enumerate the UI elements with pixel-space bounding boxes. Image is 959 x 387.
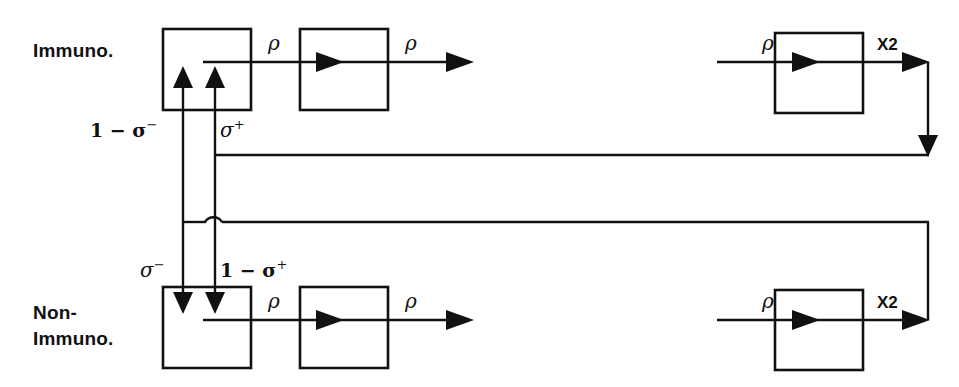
box-nonimmuno-stage-3 bbox=[775, 290, 863, 370]
box-immuno-stage-3 bbox=[775, 33, 863, 113]
arrowhead-immuno-x2 bbox=[902, 52, 930, 72]
arrowhead-immuno-feedback-down bbox=[918, 135, 938, 157]
label-non-prefix: Non- bbox=[33, 302, 77, 323]
arrowhead-nonimmuno-x2 bbox=[902, 310, 930, 330]
label-bottom-left-transition: σ− bbox=[140, 257, 165, 282]
arrowhead-nonimmuno-2-out bbox=[446, 310, 474, 330]
label-rho-nonimmuno-3: ρ bbox=[761, 289, 774, 313]
label-bottom-right-transition: 1 − σ+ bbox=[220, 257, 287, 281]
label-immuno: Immuno. bbox=[33, 40, 114, 61]
label-rho-immuno-1: ρ bbox=[267, 31, 280, 55]
label-x2-immuno: X2 bbox=[877, 35, 898, 54]
label-rho-immuno-3: ρ bbox=[761, 31, 774, 55]
label-nonimmuno: Immuno. bbox=[33, 328, 114, 349]
label-rho-nonimmuno-2: ρ bbox=[404, 289, 417, 313]
box-nonimmuno-stage-2 bbox=[300, 287, 388, 368]
label-x2-nonimmuno: X2 bbox=[877, 293, 898, 312]
diagram-root: Immuno. Non- Immuno. 1 − σ− σ+ σ− 1 − σ+… bbox=[0, 0, 959, 387]
label-rho-immuno-2: ρ bbox=[404, 31, 417, 55]
label-top-right-transition: σ+ bbox=[220, 117, 245, 142]
label-top-left-transition: 1 − σ− bbox=[90, 117, 157, 141]
arrowhead-immuno-2-out bbox=[446, 52, 474, 72]
box-immuno-stage-1 bbox=[163, 29, 251, 110]
box-nonimmuno-stage-1 bbox=[163, 287, 251, 368]
diagram-canvas: Immuno. Non- Immuno. 1 − σ− σ+ σ− 1 − σ+… bbox=[0, 0, 959, 387]
wire-hop-over-crossing bbox=[205, 217, 222, 222]
box-immuno-stage-2 bbox=[300, 29, 388, 110]
label-rho-nonimmuno-1: ρ bbox=[267, 289, 280, 313]
